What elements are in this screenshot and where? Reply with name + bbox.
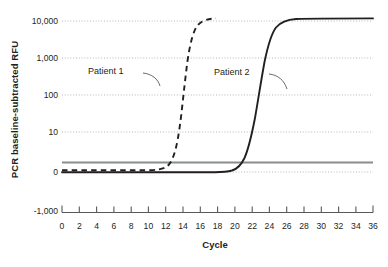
- gridlines: [62, 21, 373, 172]
- x-axis-title: Cycle: [55, 239, 375, 250]
- series-line-patient-1: [62, 18, 216, 170]
- x-axis-spine: [62, 206, 373, 213]
- patient-2-leader-line: [269, 74, 287, 89]
- annotation-patient-1: Patient 1: [88, 66, 124, 76]
- qpcr-amplification-chart: PCR baseline-subtracted RFU 10,000 1,000…: [0, 0, 388, 267]
- annotation-patient-2: Patient 2: [214, 67, 250, 77]
- patient-1-leader-line: [143, 73, 160, 86]
- series-line-patient-2: [62, 18, 373, 172]
- x-tick-label: 36: [361, 221, 385, 231]
